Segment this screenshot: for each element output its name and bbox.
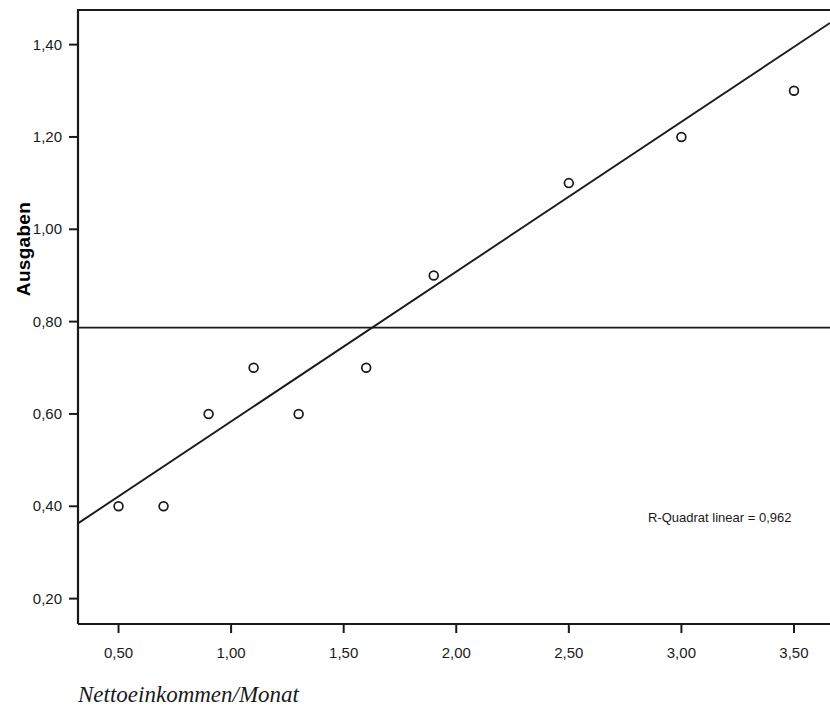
x-tick-label: 3,50 — [759, 645, 829, 660]
y-axis-tick-marks — [69, 45, 78, 599]
y-tick-label: 0,80 — [6, 314, 62, 329]
scatter-point — [362, 363, 371, 372]
scatter-point — [294, 410, 303, 419]
scatter-markers — [114, 86, 798, 510]
x-tick-label: 0,50 — [84, 645, 154, 660]
scatter-point — [429, 271, 438, 280]
scatter-point — [790, 86, 799, 95]
r-square-annotation: R-Quadrat linear = 0,962 — [648, 510, 791, 525]
x-tick-label: 3,00 — [646, 645, 716, 660]
linear-fit-line — [78, 23, 830, 523]
plot-frame-border — [78, 10, 830, 624]
x-tick-label: 2,00 — [421, 645, 491, 660]
y-tick-label: 1,40 — [6, 37, 62, 52]
scatter-point — [204, 410, 213, 419]
x-axis-tick-marks — [119, 624, 794, 633]
scatter-point — [114, 502, 123, 511]
y-tick-label: 1,20 — [6, 129, 62, 144]
x-tick-label: 1,50 — [309, 645, 379, 660]
y-tick-label: 0,20 — [6, 591, 62, 606]
scatter-point — [159, 502, 168, 511]
y-tick-label: 1,00 — [6, 221, 62, 236]
scatter-point — [677, 133, 686, 142]
scatter-plot-figure: Ausgaben 0,200,400,600,801,001,201,40 0,… — [0, 0, 830, 724]
x-axis-caption: Nettoeinkommen/Monat — [78, 682, 299, 708]
y-axis-title: Ausgaben — [13, 189, 35, 309]
scatter-point — [249, 363, 258, 372]
plot-canvas — [0, 0, 830, 724]
y-tick-label: 0,60 — [6, 406, 62, 421]
plot-frame — [78, 10, 830, 624]
scatter-point — [564, 179, 573, 188]
x-tick-label: 1,00 — [196, 645, 266, 660]
y-tick-label: 0,40 — [6, 498, 62, 513]
x-tick-label: 2,50 — [534, 645, 604, 660]
